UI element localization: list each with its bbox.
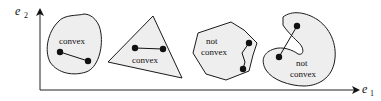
convex-triangle: convex bbox=[108, 16, 182, 78]
y-axis-subscript: 2 bbox=[24, 11, 28, 20]
nonconvex-kidney: not convex bbox=[263, 13, 335, 86]
shape-label: convex bbox=[290, 69, 316, 79]
shape-label: convex bbox=[132, 55, 158, 65]
nonconvex-polygon: not convex bbox=[193, 22, 257, 80]
shape-label: convex bbox=[59, 36, 85, 46]
convex-blob: convex bbox=[47, 14, 101, 74]
y-axis-label: e bbox=[15, 4, 21, 18]
shape-label: not bbox=[206, 36, 218, 46]
shape-label: convex bbox=[201, 47, 227, 57]
shape-label: not bbox=[296, 58, 308, 68]
x-axis-subscript: 1 bbox=[370, 89, 374, 98]
convexity-diagram: e 2 e 1 convex convex not convex not con… bbox=[0, 0, 381, 101]
x-axis-label: e bbox=[362, 82, 368, 96]
